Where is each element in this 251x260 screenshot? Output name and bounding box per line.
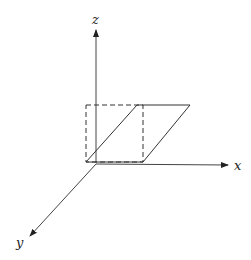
z-axis-label: z — [91, 12, 99, 27]
y-axis — [30, 164, 96, 236]
y-axis-label: y — [15, 235, 24, 250]
coordinate-diagram: z x y — [0, 0, 251, 260]
x-axis — [96, 164, 228, 165]
unit-square-dashed — [86, 105, 143, 162]
sheared-parallelogram — [86, 105, 190, 162]
x-axis-label: x — [234, 158, 242, 173]
